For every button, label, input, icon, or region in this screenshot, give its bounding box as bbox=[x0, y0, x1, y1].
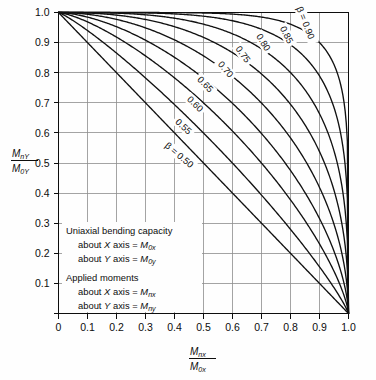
x-tick-label: 0.3 bbox=[138, 321, 153, 333]
y-tick-label: 0.5 bbox=[35, 157, 50, 169]
x-tick-label: 0.4 bbox=[167, 321, 182, 333]
x-tick-label: 0.9 bbox=[312, 321, 327, 333]
notes-line-applied-heading: Applied moments bbox=[66, 272, 139, 283]
y-tick-label: 0.6 bbox=[35, 127, 50, 139]
x-tick-label: 0.5 bbox=[196, 321, 211, 333]
chart-figure: β = 0.500.550.600.650.700.750.800.85β = … bbox=[0, 0, 376, 380]
notes-annotation: Uniaxial bending capacity about X axis =… bbox=[62, 222, 202, 313]
notes-line-uniaxial-heading: Uniaxial bending capacity bbox=[66, 225, 173, 236]
x-tick-label: 0.8 bbox=[283, 321, 298, 333]
x-tick-label: 0.7 bbox=[254, 321, 269, 333]
y-axis-denominator-subscript: 0Y bbox=[20, 168, 30, 176]
y-tick-label: 0.8 bbox=[35, 67, 50, 79]
y-tick-label: 0.4 bbox=[35, 187, 50, 199]
x-tick-label: 0.1 bbox=[80, 321, 95, 333]
x-axis-denominator-subscript: 0x bbox=[198, 366, 206, 374]
x-tick-label: 0.6 bbox=[225, 321, 240, 333]
y-tick-label: 0.3 bbox=[35, 217, 50, 229]
x-tick-label: 0 bbox=[56, 321, 62, 333]
x-tick-label: 0.2 bbox=[109, 321, 124, 333]
y-tick-label: 0.1 bbox=[35, 277, 50, 289]
biaxial-bending-interaction-chart: β = 0.500.550.600.650.700.750.800.85β = … bbox=[0, 0, 376, 380]
y-tick-label: 0.7 bbox=[35, 97, 50, 109]
x-tick-label: 1.0 bbox=[341, 321, 356, 333]
y-tick-label: 0.2 bbox=[35, 247, 50, 259]
y-tick-label: 0.9 bbox=[35, 36, 50, 48]
y-tick-label: 1.0 bbox=[35, 6, 50, 18]
